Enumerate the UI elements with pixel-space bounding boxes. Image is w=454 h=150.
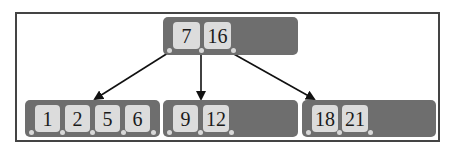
child-3-pointer-2	[337, 130, 342, 135]
child-1-pointer-3	[90, 130, 95, 135]
child-1-pointer-2	[60, 130, 65, 135]
child-2-pointer-1	[167, 130, 172, 135]
child-1-pointer-5	[151, 130, 156, 135]
child-node-1: 1 2 5 6	[25, 100, 160, 137]
child-1-key-1: 1	[35, 105, 60, 132]
child-2-pointer-2	[198, 130, 203, 135]
child-2-pointer-3	[229, 130, 234, 135]
child-3-key-2: 21	[342, 105, 368, 132]
root-pointer-2	[199, 48, 204, 53]
root-pointer-1	[167, 48, 172, 53]
child-node-2: 9 12	[163, 100, 298, 137]
child-3-key-1: 18	[312, 105, 338, 132]
root-key-2: 16	[204, 22, 231, 49]
child-1-key-4: 6	[125, 105, 150, 132]
child-2-key-1: 9	[173, 105, 198, 132]
child-1-pointer-4	[121, 130, 126, 135]
child-2-key-2: 12	[203, 105, 229, 132]
child-1-key-3: 5	[95, 105, 120, 132]
root-pointer-3	[231, 48, 236, 53]
child-3-pointer-1	[306, 130, 311, 135]
child-3-pointer-3	[368, 130, 373, 135]
child-node-3: 18 21	[302, 100, 436, 137]
child-1-pointer-1	[29, 130, 34, 135]
root-node: 7 16	[163, 17, 298, 55]
child-1-key-2: 2	[65, 105, 90, 132]
root-key-1: 7	[173, 22, 200, 49]
